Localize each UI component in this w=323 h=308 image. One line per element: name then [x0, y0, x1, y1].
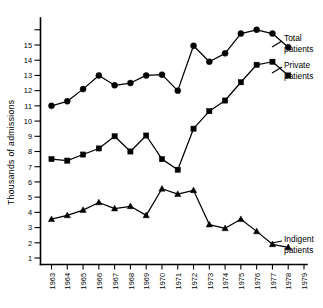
data-point-total-patients	[159, 72, 165, 78]
series-line-private-patients	[52, 62, 289, 170]
data-point-private-patients	[175, 167, 180, 172]
x-tick-label: 1966	[95, 273, 104, 289]
y-tick-label: 9	[28, 132, 32, 141]
data-point-total-patients	[222, 50, 228, 56]
x-tick-label: 1979	[300, 273, 309, 289]
chart-canvas: Thousands of admissions 1234567891011121…	[0, 0, 323, 308]
y-axis-ticks	[35, 30, 41, 258]
y-tick-label: 4	[28, 208, 32, 217]
series-label-total-line1: Total	[284, 33, 302, 43]
data-point-private-patients	[128, 149, 133, 154]
data-point-private-patients	[254, 62, 259, 67]
y-tick-label: 3	[28, 223, 32, 232]
x-tick-label: 1971	[174, 273, 183, 289]
x-tick-label: 1978	[284, 273, 293, 289]
data-point-private-patients	[144, 133, 149, 138]
series-markers-group	[48, 27, 291, 250]
data-point-private-patients	[49, 157, 54, 162]
data-point-private-patients	[222, 98, 227, 103]
data-point-total-patients	[191, 43, 197, 49]
data-point-indigent-patients	[143, 212, 149, 218]
y-tick-label: 11	[24, 102, 32, 111]
data-point-total-patients	[127, 80, 133, 86]
series-line-total-patients	[52, 30, 289, 106]
data-point-total-patients	[269, 31, 275, 37]
data-point-private-patients	[80, 152, 85, 157]
data-point-private-patients	[112, 134, 117, 139]
x-tick-label: 1972	[190, 273, 199, 289]
line-chart: Thousands of admissions 1234567891011121…	[0, 0, 323, 308]
data-point-private-patients	[238, 80, 243, 85]
y-tick-label: 1	[28, 254, 32, 263]
data-point-indigent-patients	[190, 187, 196, 193]
y-tick-label: 5	[28, 193, 32, 202]
series-label-private-line1: Private	[284, 60, 310, 70]
y-tick-label: 10	[24, 117, 32, 126]
y-tick-label: 15	[24, 41, 32, 50]
y-tick-label: 14	[24, 56, 32, 65]
y-tick-label: 7	[28, 163, 32, 172]
data-point-total-patients	[254, 27, 260, 33]
series-label-private-line2: patients	[284, 71, 313, 81]
series-label-total-line2: patients	[284, 44, 313, 54]
data-point-private-patients	[270, 59, 275, 64]
data-point-total-patients	[64, 98, 70, 104]
x-tick-label: 1970	[158, 273, 167, 289]
data-point-private-patients	[96, 146, 101, 151]
x-tick-label: 1969	[142, 273, 151, 289]
y-tick-label: 13	[24, 71, 32, 80]
indigent-leader-line	[272, 241, 282, 243]
x-tick-label: 1974	[221, 273, 230, 289]
data-point-indigent-patients	[96, 199, 102, 205]
y-tick-label: 6	[28, 178, 32, 187]
private-leader-line	[272, 67, 282, 73]
data-point-private-patients	[159, 157, 164, 162]
x-tick-label: 1965	[79, 273, 88, 289]
y-axis-title: Thousands of admissions	[6, 100, 16, 206]
series-label-indigent-line1: Indigent	[284, 234, 314, 244]
x-tick-label: 1975	[237, 273, 246, 289]
data-point-total-patients	[175, 88, 181, 94]
x-tick-label: 1977	[269, 273, 278, 289]
data-point-indigent-patients	[159, 185, 165, 191]
x-tick-label: 1968	[127, 273, 136, 289]
y-tick-label: 2	[28, 239, 32, 248]
data-point-total-patients	[49, 103, 55, 109]
x-tick-label: 1964	[63, 273, 72, 289]
y-tick-label: 12	[24, 86, 32, 95]
data-point-private-patients	[65, 158, 70, 163]
series-lines-group	[52, 30, 289, 248]
data-point-total-patients	[80, 86, 86, 92]
x-tick-label: 1976	[253, 273, 262, 289]
x-tick-label: 1973	[206, 273, 215, 289]
data-point-total-patients	[96, 72, 102, 78]
y-tick-label: 8	[28, 147, 32, 156]
series-line-indigent-patients	[52, 189, 289, 248]
data-point-total-patients	[143, 72, 149, 78]
y-axis-tick-labels: 123456789101112131415	[24, 41, 32, 263]
x-axis-tick-labels: 1963196419651966196719681969197019711972…	[48, 273, 310, 289]
data-point-total-patients	[112, 82, 118, 88]
data-point-private-patients	[191, 126, 196, 131]
x-tick-label: 1967	[111, 273, 120, 289]
data-point-indigent-patients	[127, 203, 133, 209]
data-point-total-patients	[238, 31, 244, 37]
x-tick-label: 1963	[48, 273, 57, 289]
data-point-indigent-patients	[238, 216, 244, 222]
total-leader-line	[272, 41, 282, 47]
series-label-indigent-line2: patients	[284, 245, 313, 255]
data-point-indigent-patients	[206, 221, 212, 227]
data-point-total-patients	[206, 59, 212, 65]
data-point-private-patients	[207, 109, 212, 114]
